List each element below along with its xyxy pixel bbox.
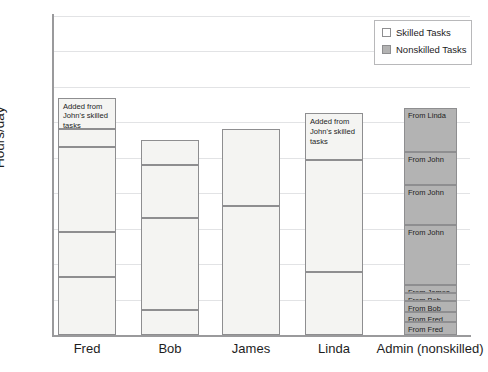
x-axis-line bbox=[52, 335, 471, 337]
legend-swatch-skilled-icon bbox=[382, 28, 391, 37]
bar-segment: Added from John's skilled tasks bbox=[58, 98, 116, 130]
bar-segment: From Bob bbox=[404, 301, 457, 311]
bar-segment: From Linda bbox=[404, 108, 457, 152]
y-axis-line bbox=[52, 14, 54, 337]
bar-segment: From John bbox=[404, 185, 457, 225]
gridline bbox=[53, 16, 470, 17]
bar-segment: From John bbox=[404, 152, 457, 185]
legend: Skilled Tasks Nonskilled Tasks bbox=[374, 20, 472, 65]
bar-segment bbox=[141, 310, 199, 335]
bar-segment bbox=[141, 218, 199, 310]
bar-segment bbox=[58, 129, 116, 147]
bar-james bbox=[222, 129, 280, 335]
segment-annotation: Added from John's skilled tasks bbox=[63, 102, 112, 130]
bar-segment bbox=[141, 165, 199, 218]
segment-label: From Linda bbox=[408, 111, 454, 120]
segment-label: From Bob bbox=[408, 304, 454, 311]
segment-label: From Bob bbox=[408, 296, 454, 301]
segment-label: From James bbox=[408, 288, 454, 293]
legend-item-skilled: Skilled Tasks bbox=[382, 27, 465, 38]
gridline bbox=[53, 87, 470, 88]
segment-label: From John bbox=[408, 155, 454, 164]
bar-bob bbox=[141, 140, 199, 335]
y-axis-label: Hours/day bbox=[0, 106, 7, 168]
bar-segment: Added from John's skilled tasks bbox=[305, 113, 363, 160]
legend-swatch-nonskilled-icon bbox=[382, 45, 391, 54]
segment-label: From John bbox=[408, 188, 454, 197]
legend-item-nonskilled: Nonskilled Tasks bbox=[382, 44, 465, 55]
legend-label-skilled: Skilled Tasks bbox=[396, 27, 451, 38]
bar-segment bbox=[58, 232, 116, 276]
legend-label-nonskilled: Nonskilled Tasks bbox=[396, 44, 467, 55]
segment-annotation: Added from John's skilled tasks bbox=[310, 117, 359, 146]
bar-segment: From Fred bbox=[404, 322, 457, 335]
segment-label: From Fred bbox=[408, 325, 454, 334]
segment-label: From Fred bbox=[408, 315, 454, 322]
bar-segment bbox=[58, 147, 116, 232]
bar-segment bbox=[305, 272, 363, 335]
bar-admin-nonskilled: From FredFrom FredFrom BobFrom BobFrom J… bbox=[404, 108, 457, 335]
bar-segment bbox=[222, 206, 280, 335]
x-tick-label: Admin (nonskilled) bbox=[360, 341, 488, 356]
bar-linda: Added from John's skilled tasks bbox=[305, 113, 363, 335]
bar-segment bbox=[305, 160, 363, 272]
bar-segment bbox=[141, 140, 199, 165]
bar-segment: From Fred bbox=[404, 312, 457, 322]
bar-segment: From Bob bbox=[404, 293, 457, 301]
bar-fred: Added from John's skilled tasks bbox=[58, 98, 116, 335]
bar-segment: From John bbox=[404, 225, 457, 285]
bar-segment bbox=[222, 129, 280, 206]
bar-segment bbox=[58, 277, 116, 335]
bar-segment: From James bbox=[404, 285, 457, 293]
segment-label: From John bbox=[408, 228, 454, 237]
